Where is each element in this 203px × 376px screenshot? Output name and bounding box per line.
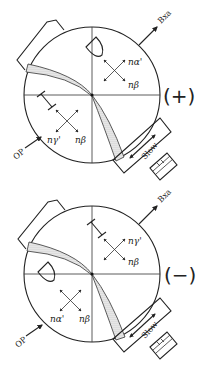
accessory-plate-slow: Slow <box>113 118 177 180</box>
melatope-dot <box>90 93 93 96</box>
label-n-gamma: nγ' <box>47 135 61 145</box>
accessory-slot-top-left <box>18 200 65 249</box>
i-beam-symbol <box>37 91 56 110</box>
op-label: OP <box>14 335 29 350</box>
optic-sign-negative: (−) <box>164 263 196 287</box>
label-n-alpha: nα' <box>50 314 64 324</box>
label-n-beta: nβ <box>128 80 139 90</box>
positive-diagram: nα' nβ nγ' nβ Bxa OP (+) Slow <box>12 8 196 180</box>
optic-sign-diagram: nα' nβ nγ' nβ Bxa OP (+) Slow <box>0 0 203 376</box>
bxa-arrow <box>139 206 157 224</box>
label-n-alpha: nα' <box>128 57 142 67</box>
accessory-plate-slow: Slow <box>113 298 177 359</box>
op-label: OP <box>12 147 27 162</box>
accessory-slot-top-left <box>17 20 64 70</box>
negative-diagram: nγ' nβ nα' nβ Bxa OP (−) Slow <box>14 187 197 359</box>
melatope-dot <box>90 272 93 275</box>
bxa-arrow <box>139 27 157 45</box>
label-n-beta-2: nβ <box>79 314 90 324</box>
bxa-label: Bxa <box>156 187 173 204</box>
half-disc-symbol <box>86 37 103 56</box>
label-n-beta: nβ <box>128 257 139 267</box>
half-disc-symbol <box>38 262 55 281</box>
bxa-label: Bxa <box>156 8 173 25</box>
op-arrow <box>26 325 42 336</box>
i-beam-symbol <box>87 219 106 238</box>
label-n-gamma: nγ' <box>128 236 142 246</box>
optic-sign-positive: (+) <box>163 84 195 108</box>
slow-label: Slow <box>140 320 160 341</box>
label-n-beta-2: nβ <box>75 135 86 145</box>
slow-label: Slow <box>140 141 160 162</box>
op-arrow <box>25 137 41 148</box>
